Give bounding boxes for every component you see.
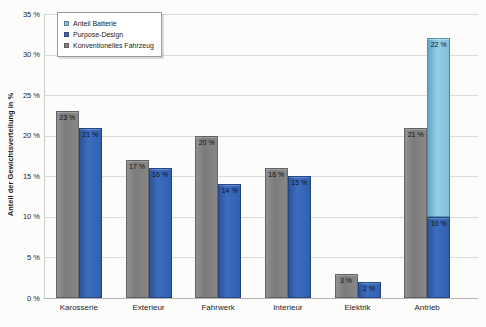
y-tick-label: 20 % <box>0 131 40 140</box>
x-axis-label-elektrik: Elektrik <box>318 303 398 313</box>
x-axis-label-fahrwerk: Fahrwerk <box>178 303 258 313</box>
gridline-25 <box>44 95 478 96</box>
legend-label: Konventionelles Fahrzeug <box>73 41 154 50</box>
bar-label: 16 % <box>266 170 287 179</box>
bar-conventional-karosserie: 23 % <box>56 111 79 298</box>
bar-conventional-interieur: 16 % <box>265 168 288 298</box>
bar-purpose-fahrwerk: 14 % <box>218 184 241 298</box>
bar-label: 3 % <box>336 276 357 285</box>
bar-purpose-elektrik: 2 % <box>358 282 381 298</box>
bar-conventional-fahrwerk: 20 % <box>195 136 218 298</box>
bar-chart: Anteil der Gewichtsverteilung in % 0 %5 … <box>0 0 486 327</box>
bar-label: 22 % <box>428 40 449 49</box>
legend-swatch-icon <box>64 21 69 26</box>
bar-label: 21 % <box>80 130 101 139</box>
y-tick-label: 5 % <box>0 253 40 262</box>
bar-label: 15 % <box>289 178 310 187</box>
y-tick-label: 25 % <box>0 91 40 100</box>
bar-purpose-exterieur: 16 % <box>149 168 172 298</box>
y-axis-line <box>44 14 45 298</box>
bar-label: 21 % <box>405 130 426 139</box>
bar-battery-antrieb: 22 % <box>427 38 450 217</box>
x-axis-label-karosserie: Karosserie <box>39 303 119 313</box>
bar-conventional-antrieb: 21 % <box>404 128 427 298</box>
bar-purpose-karosserie: 21 % <box>79 128 102 298</box>
y-tick-label: 0 % <box>0 294 40 303</box>
bar-conventional-elektrik: 3 % <box>335 274 358 298</box>
bar-label: 17 % <box>127 162 148 171</box>
y-tick-label: 30 % <box>0 50 40 59</box>
bar-purpose-antrieb: 10 % <box>427 217 450 298</box>
x-axis-label-interieur: Interieur <box>248 303 328 313</box>
bar-label: 10 % <box>428 219 449 228</box>
legend-label: Anteil Batterie <box>73 19 117 28</box>
legend-swatch-icon <box>64 32 69 37</box>
x-axis-label-antrieb: Antrieb <box>387 303 467 313</box>
legend-swatch-icon <box>64 43 69 48</box>
bar-label: 16 % <box>150 170 171 179</box>
y-tick-label: 35 % <box>0 10 40 19</box>
legend-item-battery: Anteil Batterie <box>64 19 154 28</box>
bar-label: 2 % <box>359 284 380 293</box>
bar-conventional-exterieur: 17 % <box>126 160 149 298</box>
legend-item-conventional: Konventionelles Fahrzeug <box>64 41 154 50</box>
legend: Anteil BatteriePurpose-DesignKonventione… <box>57 12 162 57</box>
bar-label: 23 % <box>57 113 78 122</box>
y-tick-label: 15 % <box>0 172 40 181</box>
y-tick-label: 10 % <box>0 212 40 221</box>
bar-label: 14 % <box>219 186 240 195</box>
legend-label: Purpose-Design <box>73 30 123 39</box>
bar-purpose-interieur: 15 % <box>288 176 311 298</box>
x-axis-line <box>44 298 478 299</box>
bar-label: 20 % <box>196 138 217 147</box>
legend-item-purpose: Purpose-Design <box>64 30 154 39</box>
x-axis-label-exterieur: Exterieur <box>109 303 189 313</box>
